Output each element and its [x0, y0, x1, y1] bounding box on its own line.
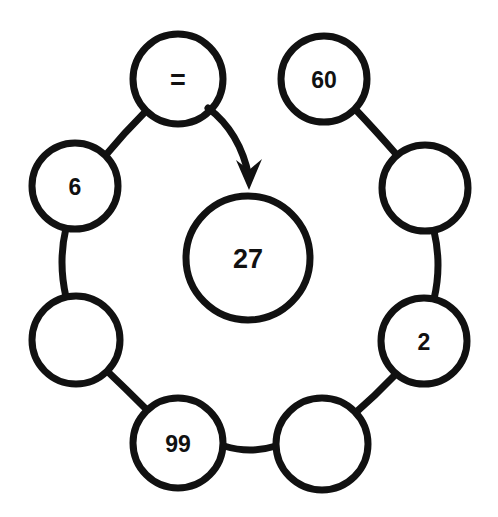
ring-node-circle-n3[interactable]	[382, 145, 468, 231]
ring-diagram-svg: =60299627	[0, 0, 498, 517]
ring-node-n2[interactable]: 60	[281, 36, 367, 122]
arrow-layer	[208, 108, 262, 190]
ring-link-n6-n7	[105, 369, 146, 409]
center-node[interactable]: 27	[186, 196, 310, 320]
ring-node-label-n6: 99	[165, 431, 191, 457]
ring-link-n5-n6	[224, 446, 276, 450]
ring-node-n4[interactable]: 2	[381, 298, 467, 384]
ring-node-n5[interactable]	[276, 398, 368, 490]
ring-node-label-n2: 60	[311, 67, 337, 93]
diagram-canvas: =60299627	[0, 0, 498, 517]
ring-node-label-n1: =	[170, 65, 186, 95]
ring-link-n8-n1	[105, 111, 146, 156]
ring-link-n7-n8	[62, 228, 66, 297]
ring-node-n7[interactable]	[32, 296, 120, 384]
node-layer: =60299627	[32, 34, 468, 490]
ring-node-n8[interactable]: 6	[32, 143, 118, 229]
ring-node-n6[interactable]: 99	[133, 398, 223, 488]
ring-node-n3[interactable]	[382, 145, 468, 231]
ring-node-circle-n7[interactable]	[32, 296, 120, 384]
ring-node-circle-n5[interactable]	[276, 398, 368, 490]
ring-link-n2-n3	[356, 110, 396, 154]
ring-node-label-n4: 2	[418, 329, 431, 355]
ring-link-n4-n5	[353, 375, 395, 415]
ring-link-n3-n4	[434, 231, 438, 299]
center-node-label: 27	[233, 244, 263, 274]
ring-node-label-n8: 6	[69, 174, 82, 200]
